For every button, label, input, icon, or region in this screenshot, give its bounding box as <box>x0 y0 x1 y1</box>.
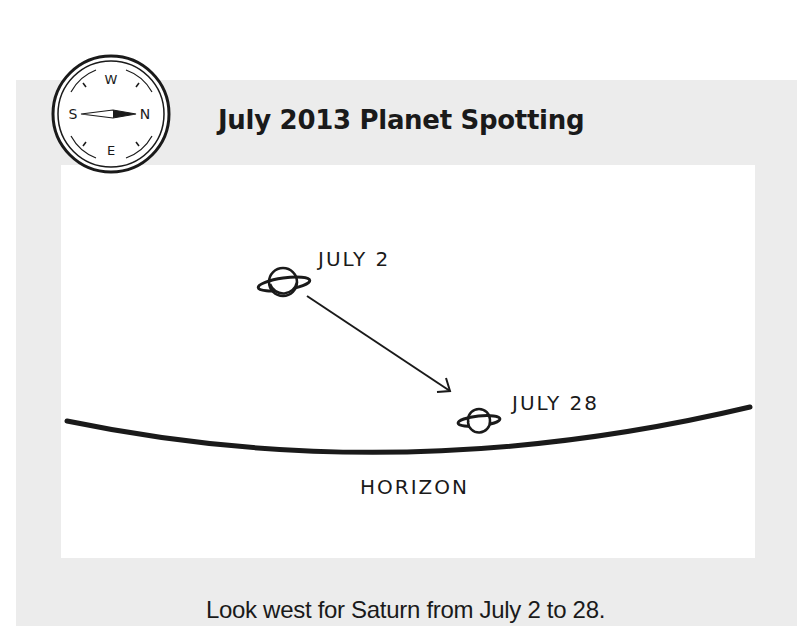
compass-icon: W E S N <box>53 56 169 172</box>
sky-diagram: W E S N JULY 2 JULY 28 HORIZON <box>0 0 811 626</box>
arrow-icon <box>307 296 450 392</box>
compass-west-label: W <box>105 72 118 87</box>
saturn-icon <box>458 409 501 433</box>
saturn-icon <box>257 268 310 296</box>
horizon-line <box>67 407 750 452</box>
compass-south-label: S <box>69 106 78 122</box>
compass-east-label: E <box>107 143 115 158</box>
page-title: July 2013 Planet Spotting <box>218 105 584 135</box>
caption: Look west for Saturn from July 2 to 28. <box>0 596 811 624</box>
horizon-label: HORIZON <box>360 475 469 499</box>
planet-label-july-2: JULY 2 <box>316 247 390 271</box>
planet-label-july-28: JULY 28 <box>510 391 599 415</box>
compass-north-label: N <box>140 106 150 122</box>
